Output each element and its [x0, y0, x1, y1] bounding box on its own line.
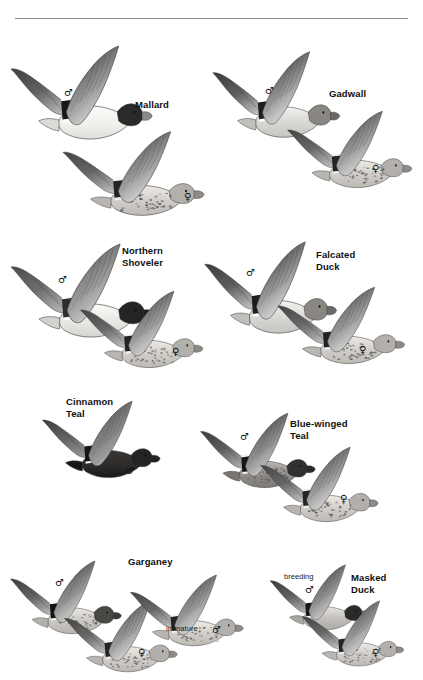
sex-symbol-mallard-male: ♂: [64, 88, 73, 98]
sex-symbol-bwteal-female: ♀: [340, 494, 347, 504]
sex-symbol-garganey-female: ♀: [138, 648, 145, 658]
sex-symbol-garganey-male: ♂: [55, 578, 64, 588]
annotation-masked-breeding-label: breeding: [284, 572, 314, 581]
sex-symbol-bwteal-male: ♂: [240, 432, 249, 442]
species-label-cinnamon-teal: Cinnamon Teal: [66, 396, 113, 419]
sex-symbol-masked-female: ♀: [372, 648, 379, 658]
species-label-masked-duck: Masked Duck: [351, 572, 386, 595]
bird-illustration-garganey-immature: [128, 572, 248, 648]
bird-illustration-falcated-female: [275, 284, 410, 366]
species-label-gadwall: Gadwall: [329, 88, 366, 100]
bird-illustration-mallard-male: [8, 42, 158, 142]
sex-symbol-garganey-immature: ♂: [212, 625, 221, 635]
sex-symbol-masked-breeding-male: ♂: [305, 585, 314, 595]
species-label-garganey: Garganey: [128, 556, 173, 568]
bird-illustration-bwteal-female: [258, 444, 383, 524]
bird-illustration-mallard-female: [60, 128, 210, 218]
annotation-garganey-immature-label: immature: [166, 624, 198, 633]
bird-illustration-masked-female: [300, 598, 408, 668]
species-label-mallard: Mallard: [135, 99, 169, 111]
species-label-blue-winged-teal: Blue-winged Teal: [290, 418, 348, 441]
sex-symbol-falcated-female: ♀: [359, 345, 366, 355]
sex-symbol-shoveler-male: ♂: [58, 275, 67, 285]
species-label-falcated-duck: Falcated Duck: [316, 249, 355, 272]
sex-symbol-shoveler-female: ♀: [172, 347, 179, 357]
sex-symbol-falcated-male: ♂: [246, 268, 255, 278]
sex-symbol-cinnamon-male: ♂: [126, 466, 135, 476]
bird-illustration-shoveler-female: [78, 288, 208, 370]
sex-symbol-gadwall-male: ♂: [265, 86, 274, 96]
species-label-northern-shoveler: Northern Shoveler: [122, 245, 163, 268]
header-rule: [15, 18, 408, 19]
field-guide-plate: Mallard♂♀Gadwall♂♀Northern Shoveler♂♀Fal…: [0, 0, 423, 680]
bird-illustration-gadwall-female: [285, 108, 417, 190]
sex-symbol-mallard-female: ♀: [184, 192, 191, 202]
sex-symbol-gadwall-female: ♀: [372, 164, 379, 174]
